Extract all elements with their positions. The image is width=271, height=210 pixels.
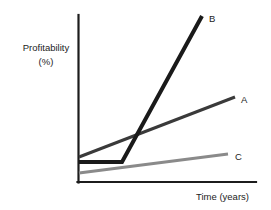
series-line-a xyxy=(79,97,235,157)
series-line-b xyxy=(79,16,202,162)
profitability-line-chart: B A C Profitability (%) Time (years) xyxy=(0,0,271,210)
series-label-c: C xyxy=(235,151,242,162)
series-label-b: B xyxy=(209,13,215,24)
y-axis-label-line2: (%) xyxy=(39,56,54,67)
series-label-a: A xyxy=(241,94,248,105)
chart-canvas: B A C Profitability (%) Time (years) xyxy=(0,0,271,210)
y-axis-label-line1: Profitability xyxy=(23,42,70,53)
x-axis-label: Time (years) xyxy=(196,191,249,202)
